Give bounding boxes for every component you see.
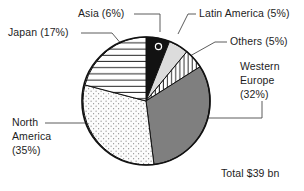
leader-line-asia xyxy=(134,14,160,32)
total-annotation: Total $39 bn xyxy=(221,167,279,181)
pie-label-asia: Asia (6%) xyxy=(78,7,124,21)
pie-label-japan: Japan (17%) xyxy=(8,26,69,40)
pie-label-latin-america: Latin America (5%) xyxy=(199,7,290,21)
pie-label-others: Others (5%) xyxy=(230,35,288,49)
leader-line-others xyxy=(190,42,227,56)
pie-chart-figure: Asia (6%) Japan (17%) Latin America (5%)… xyxy=(0,0,304,191)
pie-slices xyxy=(82,37,210,165)
leader-line-latin-america xyxy=(178,14,196,34)
